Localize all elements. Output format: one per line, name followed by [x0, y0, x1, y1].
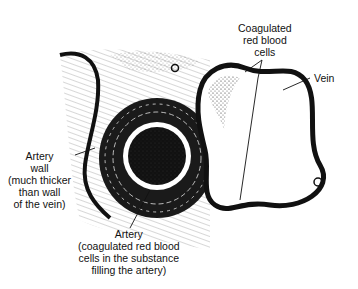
- label-coagulated-red-blood-cells: Coagulated red blood cells: [238, 22, 292, 58]
- vein: [198, 65, 324, 208]
- label-vein: Vein: [314, 72, 334, 84]
- label-artery: Artery (coagulated red blood cells in th…: [78, 228, 180, 276]
- artery-vein-cross-section-diagram: Coagulated red blood cells Vein Artery w…: [0, 0, 358, 289]
- label-artery-wall: Artery wall (much thicker than wall of t…: [8, 150, 71, 210]
